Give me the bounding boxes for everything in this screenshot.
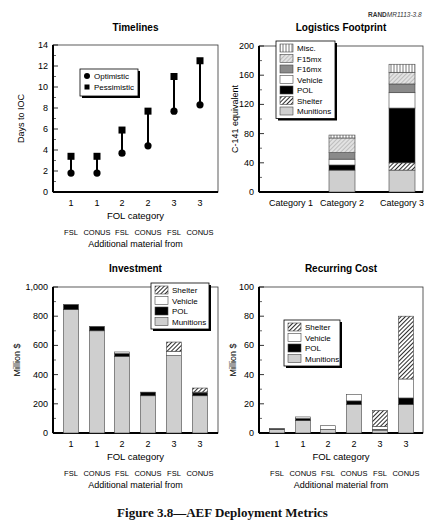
bar-segment-munitions <box>321 429 336 433</box>
y-tick-label: 40 <box>244 158 254 168</box>
bar-segment-vehicle <box>329 159 355 165</box>
x-tick-label: 3 <box>377 439 382 449</box>
x-tick-label: 2 <box>351 439 356 449</box>
bar-segment-munitions <box>296 421 311 433</box>
x-sub-label: FSL <box>321 469 335 478</box>
legend-swatch-icon <box>288 334 301 342</box>
y-tick-label: 400 <box>33 370 48 380</box>
legend-swatch-icon <box>155 297 168 305</box>
bar-segment-pol <box>193 393 208 396</box>
chart-title: Investment <box>109 263 162 274</box>
legend-label: Munitions <box>172 318 206 327</box>
legend-label: POL <box>305 344 322 353</box>
legend-label: Shelter <box>305 323 331 332</box>
x-tick-label: 2 <box>145 198 150 208</box>
legend-swatch-icon <box>280 65 293 73</box>
y-tick-label: 6 <box>43 124 48 134</box>
optimistic-point <box>93 170 100 177</box>
bar-segment-munitions <box>399 405 414 433</box>
bar-segment-vehicle <box>399 379 414 398</box>
pessimistic-point <box>171 73 178 80</box>
bar-segment-munitions <box>90 331 105 433</box>
x-sub-label: CONUS <box>289 469 316 478</box>
legend-swatch-icon <box>280 97 293 105</box>
bar-segment-pol <box>270 429 285 430</box>
x-sub-label: CONUS <box>392 469 419 478</box>
x-axis-label: FOL category <box>107 451 164 462</box>
x-sub-label: CONUS <box>340 469 367 478</box>
bar-segment-pol <box>347 401 362 405</box>
y-tick-label: 8 <box>43 103 48 113</box>
y-tick-label: 20 <box>244 399 254 409</box>
x-sub-label: CONUS <box>134 228 161 237</box>
x-axis-sublabel: Additional material from <box>294 480 389 490</box>
bar-segment-pol <box>389 108 415 163</box>
legend: Misc.F15mxF16mxVehiclePOLShelterMunition… <box>276 41 337 121</box>
legend-label: Munitions <box>297 107 331 116</box>
bar-segment-munitions <box>329 170 355 192</box>
legend-label: F16mx <box>297 65 321 74</box>
legend-label: Misc. <box>297 44 316 53</box>
legend-swatch-icon <box>280 76 293 84</box>
bar-segment-misc <box>389 64 415 72</box>
legend-label: Shelter <box>172 286 198 295</box>
x-tick-label: Category 3 <box>380 198 424 208</box>
x-tick-label: 1 <box>274 439 279 449</box>
bar-segment-shelter <box>389 163 415 170</box>
svg-text:Pessimistic: Pessimistic <box>94 83 134 92</box>
x-tick-label: 1 <box>68 198 73 208</box>
optimistic-point <box>144 142 151 149</box>
figure: Timelines02468101214Days to IOC1FSL1CONU… <box>0 0 445 522</box>
x-sub-label: CONUS <box>83 228 110 237</box>
legend-swatch-icon <box>288 344 301 352</box>
bar-segment-pol <box>141 392 156 396</box>
legend: ShelterVehiclePOLMunitions <box>151 283 211 331</box>
x-axis-sublabel: Additional material from <box>88 480 183 490</box>
pessimistic-point <box>68 153 75 160</box>
plot-frame <box>53 45 218 192</box>
bar-segment-munitions <box>193 396 208 433</box>
bar-segment-vehicle <box>167 351 182 355</box>
y-tick-label: 4 <box>43 145 48 155</box>
optimistic-point <box>170 108 177 115</box>
legend-swatch-icon <box>288 355 301 363</box>
bar-segment-pol <box>64 305 79 310</box>
x-sub-label: CONUS <box>186 228 213 237</box>
legend-label: Vehicle <box>172 297 198 306</box>
x-axis-sublabel: Additional material from <box>88 239 183 249</box>
y-tick-label: 60 <box>244 340 254 350</box>
investment-chart: Investment02004006008001,000Million $1FS… <box>12 263 218 490</box>
x-sub-label: FSL <box>64 469 78 478</box>
bar-segment-munitions <box>64 310 79 433</box>
pessimistic-point <box>145 108 152 115</box>
bar-segment-pol <box>399 398 414 405</box>
y-axis-label: Days to IOC <box>16 93 26 143</box>
optimistic-point <box>196 101 203 108</box>
chart-title: Timelines <box>113 22 159 33</box>
legend-label: Shelter <box>297 97 323 106</box>
bar-segment-f15mx <box>389 72 415 84</box>
legend-label: Vehicle <box>305 334 331 343</box>
legend-swatch-icon <box>155 307 168 315</box>
y-tick-label: 160 <box>239 70 254 80</box>
x-sub-label: FSL <box>167 228 181 237</box>
y-tick-label: 200 <box>33 399 48 409</box>
bar-segment-shelter <box>373 410 388 426</box>
optimistic-point <box>67 170 74 177</box>
y-axis-label: C-141 equivalent <box>230 84 240 153</box>
legend: ShelterVehiclePOLMunitions <box>284 320 342 368</box>
x-sub-label: CONUS <box>134 469 161 478</box>
y-tick-label: 40 <box>244 370 254 380</box>
bar-segment-vehicle <box>115 352 130 353</box>
legend-swatch-icon <box>280 86 293 94</box>
bar-segment-vehicle <box>373 426 388 429</box>
square-marker-icon <box>85 85 90 90</box>
bar-segment-shelter <box>193 388 208 392</box>
bar-segment-shelter <box>399 316 414 379</box>
legend-swatch-icon <box>288 323 301 331</box>
legend-swatch-icon <box>280 107 293 115</box>
bar-segment-munitions <box>167 356 182 433</box>
y-tick-label: 0 <box>43 187 48 197</box>
y-tick-label: 2 <box>43 166 48 176</box>
circle-marker-icon <box>84 73 90 79</box>
